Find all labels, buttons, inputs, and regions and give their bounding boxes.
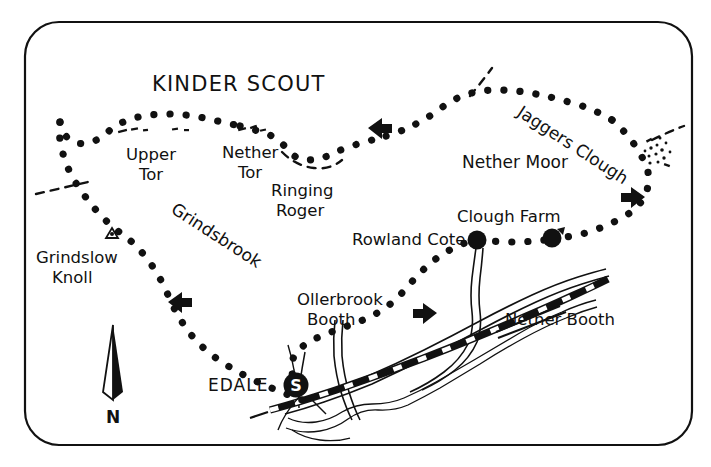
label-upper-tor-line1: Upper <box>126 145 176 164</box>
label-grindslow-line1: Grindslow <box>36 248 118 267</box>
map-title: KINDER SCOUT <box>152 72 326 96</box>
label-ringing-roger-line2: Roger <box>276 201 324 220</box>
label-grindslow-line2: Knoll <box>52 268 93 287</box>
map-canvas: S N KINDER SCOUT Upper Tor Nether Tor Ri… <box>0 0 711 467</box>
label-upper-tor-line2: Tor <box>138 165 163 184</box>
label-nether-moor: Nether Moor <box>462 152 568 172</box>
label-ringing-roger-line1: Ringing <box>271 181 334 200</box>
label-rowland-cote: Rowland Cote <box>352 230 465 249</box>
label-nether-tor-line2: Tor <box>237 163 262 182</box>
start-marker-label: S <box>290 376 302 395</box>
start-marker-s[interactable]: S <box>284 373 309 398</box>
compass-north-label: N <box>106 407 120 427</box>
map-container: S N KINDER SCOUT Upper Tor Nether Tor Ri… <box>0 0 711 467</box>
settlement-dot-rowland-cote <box>468 231 487 250</box>
label-ollerbrook-line1: Ollerbrook <box>297 290 383 309</box>
label-edale: EDALE <box>208 375 268 395</box>
label-nether-tor-line1: Nether <box>222 143 279 162</box>
label-ollerbrook-line2: Booth <box>307 310 355 329</box>
label-nether-booth: Nether Booth <box>505 310 615 329</box>
label-clough-farm: Clough Farm <box>457 207 561 226</box>
